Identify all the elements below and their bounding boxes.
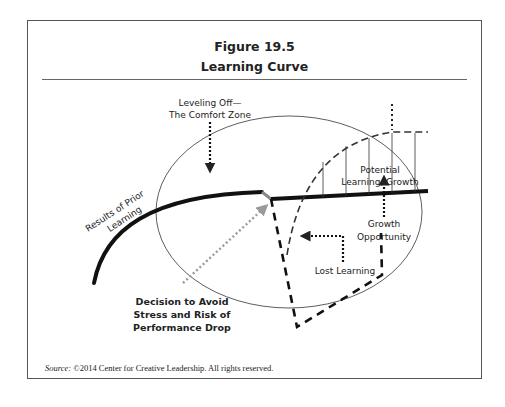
lost-learning-arrow — [305, 236, 343, 262]
decision-label-1: Decision to Avoid — [136, 296, 229, 307]
opportunity-label: Opportunity — [357, 232, 412, 242]
leveling-off-label: Leveling Off— — [179, 98, 242, 108]
decision-arrow — [183, 208, 264, 283]
growth-label: Growth — [368, 219, 401, 229]
comfort-plateau-line — [271, 191, 428, 199]
potential-label: Potential — [360, 165, 399, 175]
comfort-zone-ellipse — [156, 116, 422, 308]
comfort-zone-label: The Comfort Zone — [168, 110, 251, 120]
decision-label-3: Performance Drop — [133, 322, 231, 333]
plateau-drop-segment — [262, 192, 271, 199]
learning-curve-diagram: Results of Prior Learning Leveling Off— … — [0, 0, 505, 407]
decision-label-2: Stress and Risk of — [134, 309, 232, 320]
learning-growth-label: Learning, Growth — [341, 177, 418, 187]
lost-learning-label: Lost Learning — [315, 266, 376, 276]
